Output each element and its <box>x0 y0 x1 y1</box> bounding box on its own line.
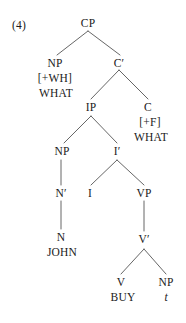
node-v: V <box>117 276 126 288</box>
node-i: I <box>88 187 92 199</box>
branch-cp-to-np-spec <box>57 31 88 55</box>
node-np-spec: NP <box>47 57 62 69</box>
lexical-trace: t <box>164 291 167 303</box>
branch-cbar-to-c <box>119 70 148 99</box>
node-cbar: C′ <box>114 57 125 69</box>
node-nbar: N′ <box>55 187 66 199</box>
node-np-obj: NP <box>158 276 173 288</box>
syntax-tree-figure: (4) CP NP [+WH] WHAT C′ IP C [+F] WHAT N… <box>0 0 186 323</box>
node-cp: CP <box>81 17 95 29</box>
node-ip: IP <box>86 101 97 113</box>
node-c: C <box>144 101 152 113</box>
branch-cp-to-cbar <box>88 31 120 55</box>
lexical-buy: BUY <box>111 291 136 303</box>
branch-ip-to-ibar <box>91 116 117 143</box>
branch-cbar-to-ip <box>91 70 119 99</box>
branch-ibar-to-vp <box>117 160 144 185</box>
node-vp: VP <box>136 187 151 199</box>
branch-ip-to-np-subj <box>64 116 91 143</box>
branch-vbar-to-v <box>121 249 144 274</box>
node-ibar: I′ <box>114 145 121 157</box>
lexical-what-c: WHAT <box>134 131 168 143</box>
tree-branch-lines <box>0 0 186 323</box>
node-n: N <box>57 231 66 243</box>
example-number: (4) <box>12 19 26 31</box>
node-vbar: V′ <box>138 233 149 245</box>
branch-vbar-to-np-obj <box>144 249 166 274</box>
branch-ibar-to-i <box>91 160 117 185</box>
feature-f: [+F] <box>139 116 160 128</box>
lexical-what-spec: WHAT <box>39 87 73 99</box>
feature-wh: [+WH] <box>38 72 72 84</box>
lexical-john: JOHN <box>47 246 77 258</box>
node-np-subj: NP <box>54 145 69 157</box>
